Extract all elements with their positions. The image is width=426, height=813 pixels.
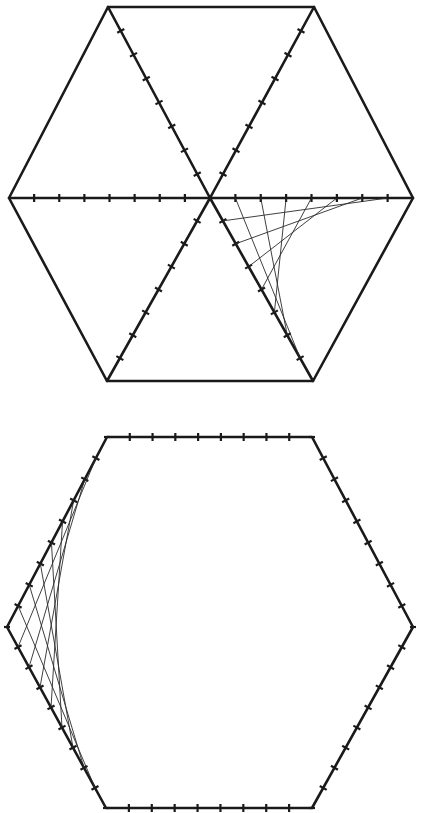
stitch-line (236, 198, 363, 244)
stitch-line (40, 500, 74, 687)
hexagon-outline (7, 437, 413, 808)
figure-canvas (0, 0, 426, 813)
hexagon-with-marked-edges (4, 433, 416, 812)
stitch-line (223, 198, 388, 221)
spokes (9, 7, 413, 381)
hexagon-with-spokes (9, 7, 413, 381)
curve-stitching-lines (18, 458, 96, 788)
stitch-line (249, 198, 337, 267)
tick-marks (4, 433, 416, 812)
curve-stitching-lines (223, 198, 388, 358)
